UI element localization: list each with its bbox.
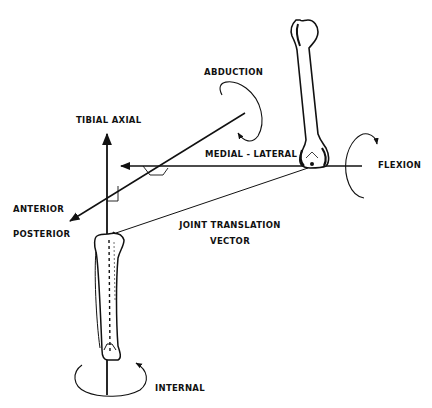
femur-bone	[291, 20, 328, 168]
tibial-axial-label: TIBIAL AXIAL	[76, 116, 141, 125]
anterior-posterior-axis	[70, 113, 245, 221]
internal-rotation-arrow	[75, 363, 146, 396]
abduction-label: ABDUCTION	[204, 68, 263, 77]
flexion-label: FLEXION	[378, 161, 421, 170]
medial-lateral-label: MEDIAL - LATERAL	[205, 150, 297, 159]
knee-kinematics-diagram	[0, 0, 432, 408]
joint-translation-label-line2: VECTOR	[176, 237, 284, 246]
abduction-rotation-arrow	[220, 82, 262, 141]
posterior-label: POSTERIOR	[13, 230, 70, 239]
tibia-bone	[95, 233, 124, 360]
anterior-label: ANTERIOR	[13, 205, 64, 214]
joint-translation-label-line1: JOINT TRANSLATION	[176, 221, 284, 230]
internal-label: INTERNAL	[155, 384, 205, 393]
